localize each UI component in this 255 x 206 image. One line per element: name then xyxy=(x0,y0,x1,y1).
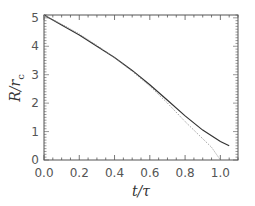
y-axis-label: R/rc xyxy=(7,74,26,103)
y-tick-label: 4 xyxy=(31,39,39,53)
y-tick-label: 3 xyxy=(31,68,39,82)
data-series xyxy=(44,15,229,160)
x-tick-label: 0.0 xyxy=(34,166,53,180)
x-tick-label: 0.4 xyxy=(105,166,124,180)
plot-frame xyxy=(44,15,238,160)
x-tick-label: 0.8 xyxy=(176,166,195,180)
y-tick-label: 0 xyxy=(31,153,39,167)
y-tick-label: 2 xyxy=(31,96,39,110)
x-tick-label: 0.6 xyxy=(140,166,159,180)
axis-ticks xyxy=(44,15,238,160)
solid-curve xyxy=(44,15,229,146)
y-tick-label: 1 xyxy=(31,125,39,139)
x-tick-label: 1.0 xyxy=(211,166,230,180)
dotted-curve xyxy=(44,15,220,160)
x-tick-label: 0.2 xyxy=(70,166,89,180)
y-tick-label: 5 xyxy=(31,11,39,25)
x-axis-label: t/τ xyxy=(132,183,150,199)
tick-labels: 0.00.20.40.60.81.0012345 xyxy=(31,11,230,180)
chart: 0.00.20.40.60.81.0012345 t/τ R/rc xyxy=(0,0,255,206)
